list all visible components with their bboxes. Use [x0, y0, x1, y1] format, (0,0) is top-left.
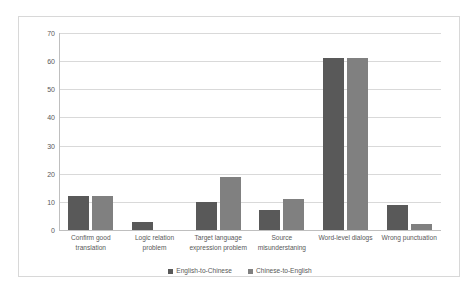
x-axis-category-labels: Confirm good translationLogic relation p…	[59, 233, 441, 263]
legend-item[interactable]: English-to-Chinese	[168, 268, 232, 275]
category-label: Word-level dialogs	[314, 233, 378, 263]
y-tick-label: 70	[21, 30, 55, 37]
y-tick-label: 30	[21, 142, 55, 149]
legend-swatch-icon	[248, 269, 253, 274]
bar-group	[123, 33, 187, 230]
bar[interactable]	[323, 58, 344, 230]
legend-label: English-to-Chinese	[176, 268, 232, 275]
bar-group	[59, 33, 123, 230]
bar-group	[250, 33, 314, 230]
category-label: Target language expression problem	[186, 233, 250, 263]
bar[interactable]	[132, 222, 153, 230]
y-tick-label: 20	[21, 170, 55, 177]
x-axis-line	[59, 230, 441, 231]
bar[interactable]	[347, 58, 368, 230]
y-tick-label: 50	[21, 86, 55, 93]
y-tick-label: 40	[21, 114, 55, 121]
bar[interactable]	[259, 210, 280, 230]
legend-swatch-icon	[168, 269, 173, 274]
chart-legend: English-to-ChineseChinese-to-English	[19, 268, 461, 275]
category-label: Logic relation problem	[123, 233, 187, 263]
y-tick-label: 10	[21, 198, 55, 205]
bar-groups	[59, 33, 441, 230]
bar[interactable]	[196, 202, 217, 230]
bar[interactable]	[411, 224, 432, 230]
bar[interactable]	[283, 199, 304, 230]
category-label: Source misunderstaning	[250, 233, 314, 263]
bar-group	[314, 33, 378, 230]
y-tick-label: 60	[21, 58, 55, 65]
bar[interactable]	[92, 196, 113, 230]
bar-group	[377, 33, 441, 230]
legend-label: Chinese-to-English	[256, 268, 312, 275]
y-axis-tick-labels: 706050403020100	[19, 33, 55, 230]
bar[interactable]	[68, 196, 89, 230]
category-label: Wrong punctuation	[377, 233, 441, 263]
category-label: Confirm good translation	[59, 233, 123, 263]
y-tick-label: 0	[21, 227, 55, 234]
legend-item[interactable]: Chinese-to-English	[248, 268, 312, 275]
bar-group	[186, 33, 250, 230]
bar-chart: 706050403020100 Confirm good translation…	[18, 16, 460, 277]
bar[interactable]	[220, 177, 241, 230]
bar[interactable]	[387, 205, 408, 230]
